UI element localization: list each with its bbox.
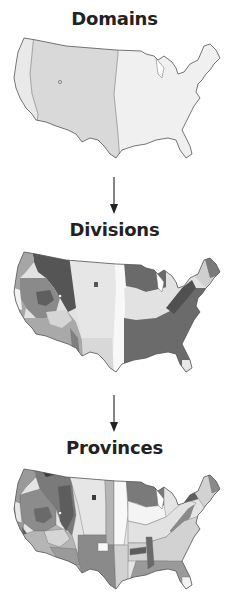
title-domains: Domains (0, 8, 229, 30)
map-divisions (6, 246, 222, 378)
domain-regions (6, 34, 222, 162)
down-arrow-icon (108, 395, 120, 433)
black-hills (92, 495, 96, 500)
great-salt-lake (58, 511, 61, 514)
great-salt-lake (58, 294, 61, 297)
map-domains (6, 34, 222, 162)
title-divisions: Divisions (0, 219, 229, 241)
title-provinces: Provinces (0, 437, 229, 459)
division-regions (6, 248, 222, 376)
province-regions (6, 465, 222, 593)
black-hills (94, 282, 98, 287)
down-arrow-icon (108, 177, 120, 215)
map-provinces (6, 462, 222, 596)
